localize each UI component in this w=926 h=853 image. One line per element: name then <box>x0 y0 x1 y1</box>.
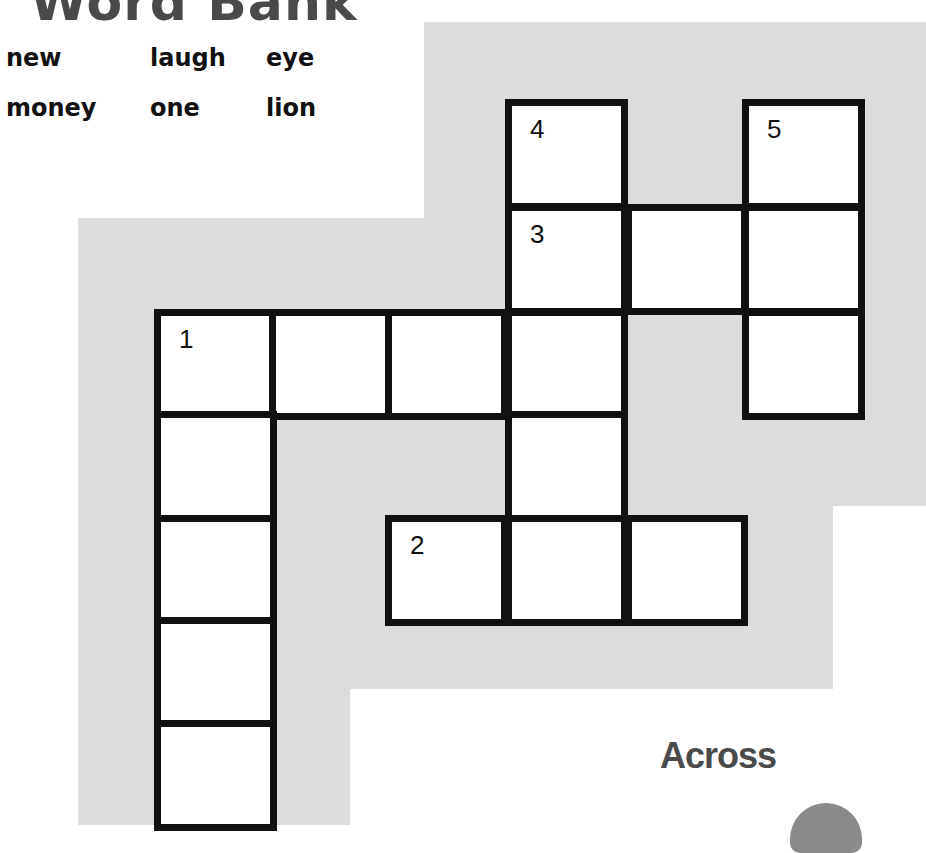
crossword-cell[interactable] <box>154 720 277 831</box>
crossword-cell[interactable] <box>742 204 865 315</box>
crossword-cell[interactable] <box>625 204 748 315</box>
across-heading: Across <box>660 735 776 777</box>
clue-number: 5 <box>767 114 781 145</box>
crossword-cell[interactable] <box>154 617 277 728</box>
word-bank-word: one <box>150 94 200 122</box>
word-bank-word: laugh <box>150 44 226 72</box>
word-bank-word: money <box>6 94 97 122</box>
crossword-cell[interactable] <box>154 411 277 522</box>
crossword-cell[interactable]: 2 <box>385 515 508 626</box>
crossword-cell[interactable] <box>505 309 628 420</box>
crossword-cell[interactable] <box>385 309 508 420</box>
crossword-cell[interactable]: 3 <box>505 204 628 315</box>
crossword-cell[interactable] <box>625 515 748 626</box>
lion-mascot-icon <box>790 803 862 853</box>
word-bank-word: new <box>6 44 62 72</box>
crossword-cell[interactable]: 4 <box>505 99 628 210</box>
crossword-cell[interactable]: 1 <box>154 309 277 420</box>
word-bank-word: eye <box>266 44 314 72</box>
crossword-cell[interactable] <box>154 515 277 626</box>
crossword-cell[interactable] <box>742 309 865 420</box>
crossword-cell[interactable] <box>505 515 628 626</box>
clue-number: 2 <box>410 530 424 561</box>
word-bank-word: lion <box>266 94 316 122</box>
crossword-cell[interactable]: 5 <box>742 99 865 210</box>
crossword-cell[interactable] <box>505 411 628 522</box>
clue-number: 3 <box>530 219 544 250</box>
clue-number: 1 <box>179 324 193 355</box>
crossword-cell[interactable] <box>269 309 392 420</box>
clue-number: 4 <box>530 114 544 145</box>
word-bank-title: Word Bank <box>30 0 358 32</box>
